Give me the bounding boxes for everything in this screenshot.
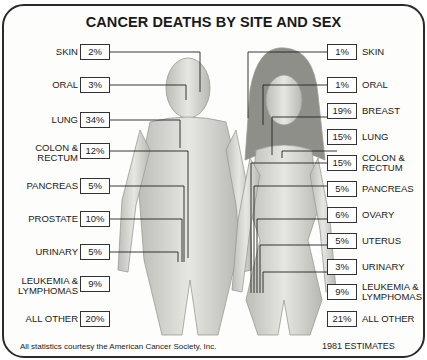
male-label-urinary: URINARY — [35, 247, 78, 257]
female-value-breast: 19% — [327, 103, 357, 119]
female-label-pancreas: PANCREAS — [362, 184, 414, 194]
male-label-oral: ORAL — [52, 80, 78, 90]
male-value-prostate: 10% — [80, 211, 110, 227]
female-label-leukemia-lymphomas: LEUKEMIA & LYMPHOMAS — [362, 282, 427, 302]
female-value-ovary: 6% — [327, 207, 357, 223]
male-label-all-other: ALL OTHER — [26, 314, 78, 324]
male-value-urinary: 5% — [80, 244, 110, 260]
male-value-pancreas: 5% — [80, 178, 110, 194]
male-label-skin: SKIN — [56, 47, 78, 57]
male-value-all-other: 20% — [80, 311, 110, 327]
male-silhouette — [118, 58, 252, 335]
female-value-uterus: 5% — [327, 233, 357, 249]
female-label-uterus: UTERUS — [362, 236, 401, 246]
female-value-leukemia-lymphomas: 9% — [327, 284, 357, 300]
female-value-oral: 1% — [327, 77, 357, 93]
male-label-colon-rectum: COLON & RECTUM — [18, 143, 78, 163]
male-value-colon-rectum: 12% — [80, 143, 110, 159]
male-label-leukemia-lymphomas: LEUKEMIA & LYMPHOMAS — [8, 276, 78, 296]
female-value-colon-rectum: 15% — [327, 155, 357, 171]
female-label-urinary: URINARY — [362, 262, 405, 272]
female-label-colon-rectum: COLON & RECTUM — [362, 153, 417, 173]
male-label-lung: LUNG — [52, 115, 78, 125]
female-value-skin: 1% — [327, 44, 357, 60]
female-label-oral: ORAL — [362, 80, 388, 90]
female-label-lung: LUNG — [362, 132, 388, 142]
female-value-urinary: 3% — [327, 259, 357, 275]
female-label-ovary: OVARY — [362, 210, 394, 220]
female-label-all-other: ALL OTHER — [362, 314, 414, 324]
male-label-pancreas: PANCREAS — [26, 181, 78, 191]
male-value-oral: 3% — [80, 77, 110, 93]
female-value-pancreas: 5% — [327, 181, 357, 197]
male-value-skin: 2% — [80, 44, 110, 60]
source-credit: All statistics courtesy the American Can… — [20, 342, 216, 351]
male-label-prostate: PROSTATE — [28, 214, 78, 224]
male-value-lung: 34% — [80, 112, 110, 128]
female-value-all-other: 21% — [327, 311, 357, 327]
female-label-skin: SKIN — [362, 47, 384, 57]
female-value-lung: 15% — [327, 129, 357, 145]
male-value-leukemia-lymphomas: 9% — [80, 276, 110, 292]
estimates-year: 1981 ESTIMATES — [322, 341, 395, 351]
female-label-breast: BREAST — [362, 106, 400, 116]
